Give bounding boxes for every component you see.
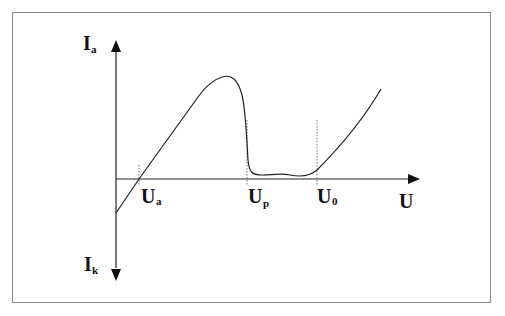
- svg-text:0: 0: [332, 195, 338, 207]
- iv-characteristic-diagram: I a I k U U a U p U 0: [0, 0, 505, 316]
- y-axis-up-arrow-icon: [111, 40, 121, 52]
- svg-text:U: U: [141, 185, 155, 207]
- y-negative-label: I k: [84, 253, 99, 276]
- svg-text:U: U: [317, 185, 331, 207]
- svg-text:U: U: [399, 190, 413, 212]
- svg-text:k: k: [92, 264, 99, 276]
- y-positive-label: I a: [83, 32, 97, 55]
- marker-ua-label: U a: [141, 185, 162, 207]
- marker-u0-label: U 0: [317, 185, 338, 207]
- svg-text:a: a: [156, 195, 162, 207]
- svg-text:I: I: [83, 32, 91, 54]
- svg-text:a: a: [91, 43, 97, 55]
- marker-up-label: U p: [248, 185, 269, 209]
- y-axis-down-arrow-icon: [111, 269, 121, 281]
- x-axis-right-arrow-icon: [408, 174, 420, 184]
- svg-text:I: I: [84, 253, 92, 275]
- svg-text:U: U: [248, 185, 262, 207]
- svg-text:p: p: [263, 197, 269, 209]
- x-axis-label: U: [399, 190, 413, 212]
